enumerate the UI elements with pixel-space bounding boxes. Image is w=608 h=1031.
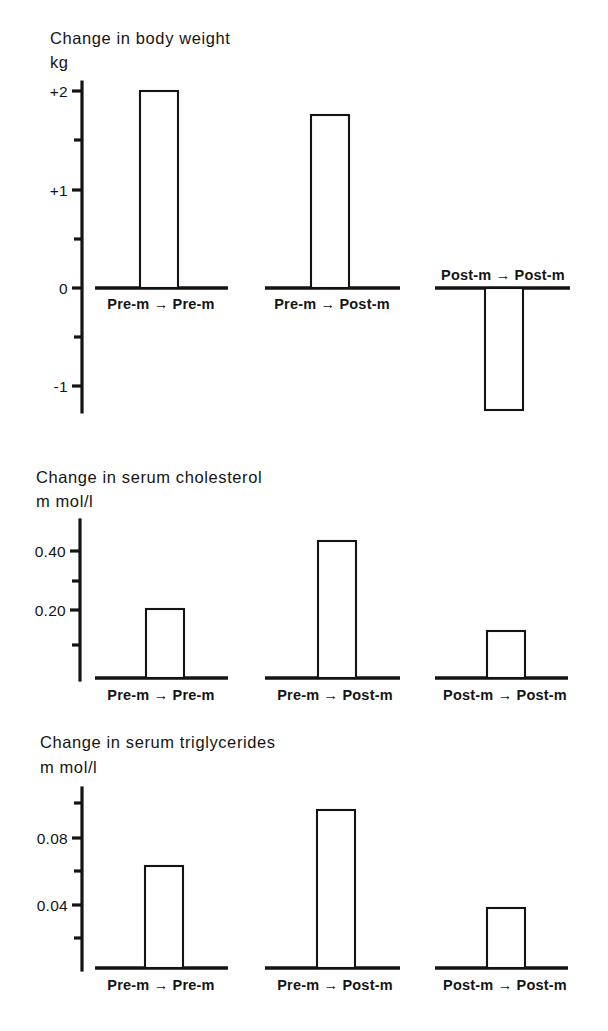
panel-title-serum-triglycerides: Change in serum triglycerides [40,733,276,751]
group-label-pre-pre: Pre-m → Pre-m [107,296,214,312]
group-label-chol-post-post: Post-m → Post-m [443,687,567,703]
bar-body-weight-pre-pre [140,91,178,288]
y-tick-label-plus2: +2 [50,83,68,100]
bar-cholesterol-post-post [487,631,525,678]
group-label-tg-post-post: Post-m → Post-m [443,977,567,993]
group-label-chol-pre-post: Pre-m → Post-m [277,687,393,703]
y-tick-label-zero: 0 [59,280,68,297]
panel-unit-body-weight: kg [50,53,69,71]
bar-triglycerides-post-post [487,908,525,968]
y-tick-label-plus1: +1 [50,182,68,199]
group-label-tg-pre-pre: Pre-m → Pre-m [107,977,214,993]
panel-serum-triglycerides: Change in serum triglycerides m mol/l 0.… [37,733,568,993]
panel-serum-cholesterol: Change in serum cholesterol m mol/l 0.40… [35,468,568,703]
y-tick-label-0p40: 0.40 [35,543,66,560]
y-tick-label-0p20: 0.20 [35,602,66,619]
group-label-chol-pre-pre: Pre-m → Pre-m [107,687,214,703]
bar-body-weight-pre-post [311,115,349,288]
bar-body-weight-post-post [485,288,523,410]
panel-body-weight: Change in body weight kg +2 +1 0 -1 Pre-… [50,29,570,412]
group-label-post-post: Post-m → Post-m [441,267,565,283]
bar-cholesterol-pre-pre [146,609,184,678]
group-label-pre-post: Pre-m → Post-m [274,296,390,312]
bar-cholesterol-pre-post [318,541,356,678]
y-tick-label-0p04: 0.04 [37,897,68,914]
bar-triglycerides-pre-pre [145,866,183,968]
y-tick-label-minus1: -1 [54,378,68,395]
bar-triglycerides-pre-post [317,810,355,968]
panel-unit-serum-triglycerides: m mol/l [40,758,97,776]
panel-title-body-weight: Change in body weight [50,29,230,47]
group-label-tg-pre-post: Pre-m → Post-m [277,977,393,993]
panel-unit-serum-cholesterol: m mol/l [36,492,93,510]
panel-title-serum-cholesterol: Change in serum cholesterol [36,468,262,486]
figure-three-panel-bar-charts: Change in body weight kg +2 +1 0 -1 Pre-… [0,0,608,1031]
chart-canvas: Change in body weight kg +2 +1 0 -1 Pre-… [0,0,608,1031]
y-tick-label-0p08: 0.08 [37,830,68,847]
